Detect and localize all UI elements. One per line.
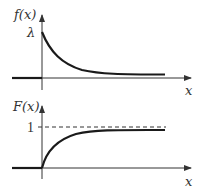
cdf-curve <box>42 130 165 168</box>
pdf-curve <box>42 32 165 75</box>
cdf-x-label: x <box>185 174 193 189</box>
pdf-lambda-tick: λ <box>26 25 35 40</box>
pdf-panel: f(x) λ x <box>12 7 193 98</box>
pdf-y-label: f(x) <box>13 7 36 22</box>
cdf-y-label: F(x) <box>12 99 40 114</box>
exponential-distribution-figure: f(x) λ x F(x) 1 x <box>0 0 202 196</box>
pdf-x-label: x <box>185 83 193 98</box>
cdf-one-tick: 1 <box>27 120 34 135</box>
cdf-panel: F(x) 1 x <box>12 99 193 189</box>
